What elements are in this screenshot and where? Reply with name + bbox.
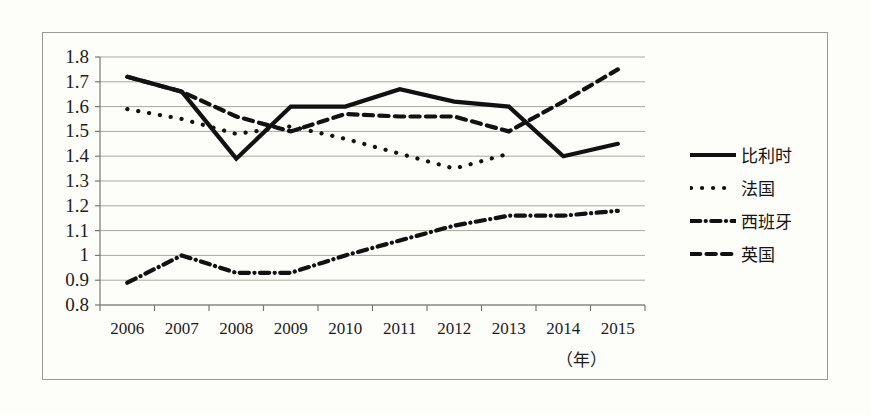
legend-line-sample-icon	[690, 214, 736, 228]
y-axis-tick-label: 1.2	[43, 196, 89, 215]
legend-line-sample-icon	[690, 181, 736, 195]
x-axis-tick-label: 2006	[99, 320, 155, 337]
y-axis-tick-label: 0.9	[43, 270, 89, 289]
x-axis-tick-label: 2008	[208, 320, 264, 337]
series-line-0	[127, 77, 618, 159]
legend-item-label: 法国	[741, 175, 775, 200]
y-axis-tick-label: 1.8	[43, 47, 89, 66]
chart-figure: 1.81.71.61.51.41.31.21.110.90.8 20062007…	[0, 0, 871, 415]
legend-item-label: 西班牙	[741, 208, 792, 233]
x-axis-tick-label: 2011	[372, 320, 428, 337]
y-axis-tick-label: 1.5	[43, 121, 89, 140]
y-axis-tick-label: 1.3	[43, 171, 89, 190]
y-axis-tick-label: 1	[43, 245, 89, 264]
x-axis-tick-label: 2013	[481, 320, 537, 337]
legend-item-0[interactable]: 比利时	[690, 138, 820, 171]
x-axis-tick-label: 2012	[426, 320, 482, 337]
chart-legend: 比利时法国西班牙英国	[690, 138, 820, 270]
x-axis-tick-label: 2007	[154, 320, 210, 337]
y-axis-tick-label: 0.8	[43, 295, 89, 314]
x-axis-tick-label: 2009	[263, 320, 319, 337]
x-axis-tickmarks	[100, 305, 645, 311]
x-axis-tick-label: 2010	[317, 320, 373, 337]
legend-item-label: 英国	[741, 241, 775, 266]
legend-line-sample-icon	[690, 247, 736, 261]
y-axis-tickmarks	[95, 57, 100, 305]
x-axis-tick-label: 2015	[590, 320, 646, 337]
x-axis-tick-label: 2014	[535, 320, 591, 337]
series-line-3	[127, 69, 618, 131]
legend-line-sample-icon	[690, 148, 736, 162]
y-axis-tick-label: 1.4	[43, 146, 89, 165]
data-series-layer	[127, 69, 618, 282]
legend-item-2[interactable]: 西班牙	[690, 204, 820, 237]
series-line-2	[127, 211, 618, 283]
legend-item-label: 比利时	[741, 142, 792, 167]
x-axis-unit-label: （年）	[556, 346, 607, 371]
y-axis-tick-label: 1.6	[43, 97, 89, 116]
legend-item-3[interactable]: 英国	[690, 237, 820, 270]
y-axis-tick-label: 1.1	[43, 221, 89, 240]
y-axis-tick-label: 1.7	[43, 72, 89, 91]
legend-item-1[interactable]: 法国	[690, 171, 820, 204]
